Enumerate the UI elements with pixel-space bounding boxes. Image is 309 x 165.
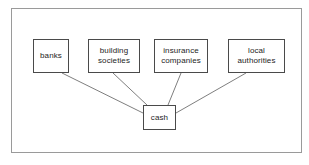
figure-caption: [13, 156, 293, 164]
node-insurance-companies: insurance companies: [154, 39, 208, 73]
node-insurance-companies-label: insurance companies: [159, 46, 203, 66]
node-building-societies-label: building societies: [96, 46, 132, 66]
node-cash: cash: [143, 105, 176, 130]
node-banks: banks: [33, 39, 69, 73]
node-local-authorities-label: local authorities: [235, 46, 277, 66]
node-local-authorities: local authorities: [228, 39, 285, 73]
node-banks-label: banks: [38, 51, 64, 61]
diagram-page: banks building societies insurance compa…: [0, 0, 309, 165]
diagram-frame: [11, 8, 302, 153]
node-building-societies: building societies: [88, 39, 140, 73]
node-cash-label: cash: [149, 113, 170, 123]
